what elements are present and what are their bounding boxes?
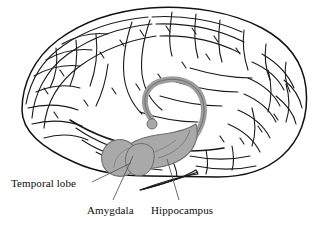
- label-hippocampus: Hippocampus: [151, 204, 213, 216]
- brain-anatomy-figure: Temporal lobe Amygdala Hippocampus: [0, 0, 324, 235]
- brain-diagram-svg: [0, 0, 324, 235]
- uncus-lobe: [126, 144, 155, 176]
- mammillary-body: [147, 119, 157, 129]
- label-amygdala: Amygdala: [87, 204, 134, 216]
- label-temporal-lobe: Temporal lobe: [11, 177, 76, 189]
